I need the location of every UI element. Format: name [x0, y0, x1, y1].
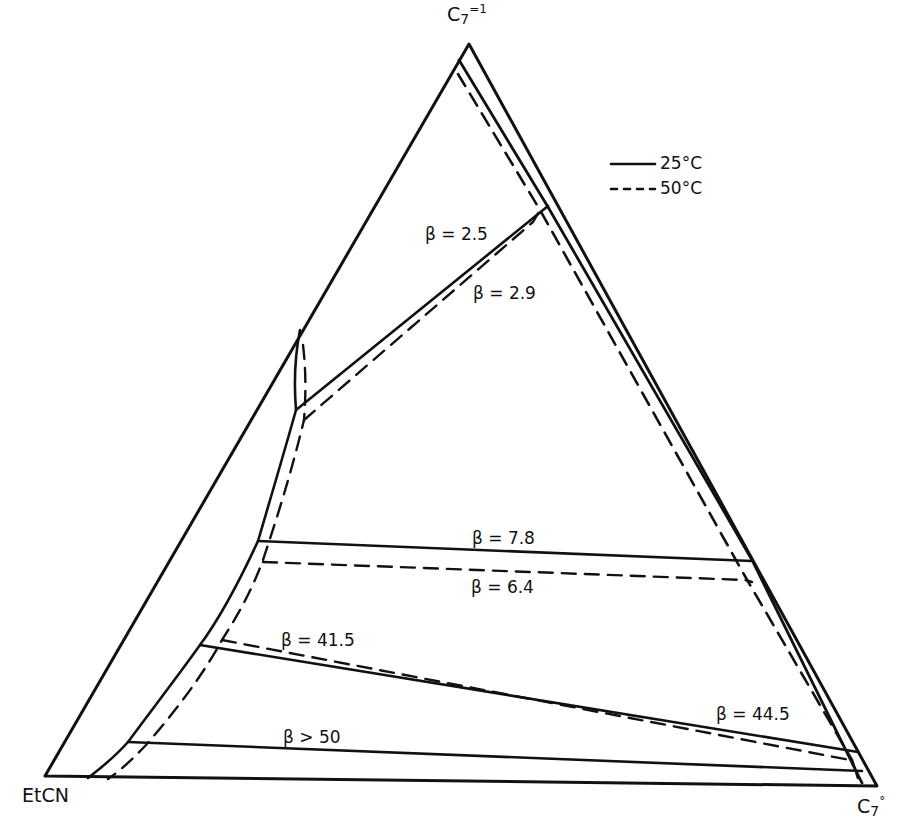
legend-label-50c: 50°C	[660, 178, 702, 198]
tieline-beta-2.9	[296, 206, 548, 410]
vertex-label-top: C7=1	[447, 2, 487, 27]
binodal-right-50c	[458, 74, 858, 778]
beta-label-44.5: β = 44.5	[716, 704, 790, 724]
triangle-frame	[45, 44, 877, 786]
vertex-label-right: C7°	[857, 794, 885, 819]
ternary-diagram: C7=1 EtCN C7° 25°C 50°C β = 2.5 β = 2.9 …	[0, 0, 906, 835]
tieline-beta-gt-50	[128, 742, 862, 771]
beta-label-7.8: β = 7.8	[472, 528, 535, 548]
beta-label-gt-50: β > 50	[283, 727, 341, 747]
beta-label-2.5: β = 2.5	[425, 224, 488, 244]
binodal-left-25c	[88, 330, 300, 778]
legend-label-25c: 25°C	[660, 153, 702, 173]
beta-label-41.5: β = 41.5	[281, 630, 355, 650]
beta-label-6.4: β = 6.4	[471, 577, 534, 597]
vertex-label-left: EtCN	[22, 784, 69, 806]
beta-label-2.9: β = 2.9	[473, 283, 536, 303]
